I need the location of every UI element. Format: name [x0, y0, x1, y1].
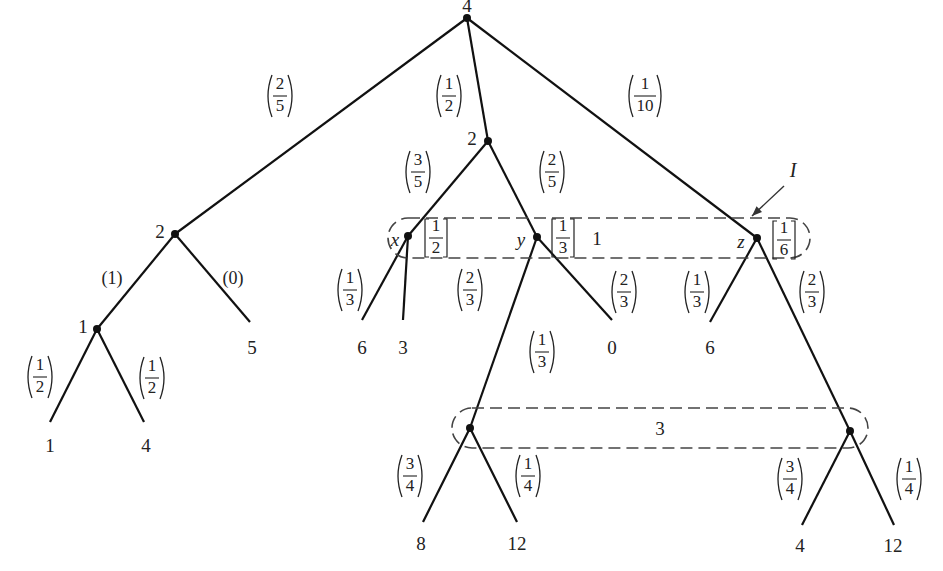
tree-edge: [467, 18, 757, 238]
tree-edge: [97, 329, 144, 422]
fraction-numerator: 3: [406, 454, 415, 473]
fraction-numerator: 1: [559, 216, 568, 235]
right-bracket-icon: [570, 219, 574, 257]
information-set-lower: 3: [452, 408, 868, 448]
right-paren-icon: [657, 75, 661, 117]
fraction-numerator: 2: [466, 268, 475, 287]
edge-probability: 14: [897, 457, 921, 500]
right-paren-icon: [160, 357, 164, 399]
edge-probability: 12: [28, 355, 52, 398]
decision-node-dot: [93, 325, 101, 333]
right-paren-icon: [536, 455, 540, 497]
edge-probability: 23: [800, 270, 824, 313]
edge-probability: 35: [406, 150, 430, 193]
fraction-numerator: 1: [346, 268, 355, 287]
fraction-numerator: 1: [538, 330, 547, 349]
fraction-numerator: 1: [641, 74, 650, 93]
fraction-denominator: 5: [276, 96, 285, 115]
decision-node-dot: [466, 424, 474, 432]
payoff-leaves: 1456306812412: [45, 337, 902, 556]
decision-node-dot: [533, 233, 541, 241]
edge-probability: 25: [268, 74, 292, 117]
payoff-value: 12: [884, 535, 903, 556]
left-paren-icon: [398, 455, 402, 497]
information-set-player: 3: [655, 418, 665, 439]
fraction-denominator: 6: [780, 240, 789, 259]
edge-probability: 12: [140, 356, 164, 399]
fraction-denominator: 2: [432, 238, 441, 257]
left-bracket-icon: [552, 219, 556, 257]
right-bracket-icon: [791, 221, 795, 259]
info-set-label: I: [789, 159, 798, 181]
game-tree-diagram: 13 2512110(1)(0)121235251323132313233414…: [0, 0, 943, 571]
tree-edge: [802, 431, 850, 525]
node-name-x: x: [390, 229, 400, 250]
left-paren-icon: [540, 151, 544, 193]
node-name-y: y: [515, 229, 526, 250]
node-player-label: 1: [78, 316, 88, 337]
tree-edge: [488, 141, 537, 237]
fraction-denominator: 5: [548, 172, 557, 191]
payoff-value: 4: [141, 435, 151, 456]
left-paren-icon: [897, 458, 901, 500]
left-paren-icon: [685, 271, 689, 313]
fraction-numerator: 2: [548, 150, 557, 169]
fraction-denominator: 3: [466, 290, 475, 309]
left-paren-icon: [612, 271, 616, 313]
tree-edge: [470, 428, 517, 522]
node-player-label: 2: [155, 221, 165, 242]
right-paren-icon: [288, 75, 292, 117]
payoff-value: 5: [247, 337, 257, 358]
fraction-denominator: 2: [445, 96, 454, 115]
edge-probability: 25: [540, 150, 564, 193]
decision-node-dot: [171, 230, 179, 238]
fraction-numerator: 1: [780, 218, 789, 237]
fraction-numerator: 1: [905, 457, 914, 476]
fraction-numerator: 1: [432, 216, 441, 235]
left-paren-icon: [28, 356, 32, 398]
information-sets: 13: [388, 218, 868, 448]
right-paren-icon: [48, 356, 52, 398]
left-paren-icon: [778, 458, 782, 500]
fraction-denominator: 3: [346, 290, 355, 309]
decision-node-dot: [484, 137, 492, 145]
edge-probability: 23: [458, 268, 482, 311]
right-paren-icon: [632, 271, 636, 313]
decision-node-dot: [753, 234, 761, 242]
fraction-denominator: 4: [786, 479, 795, 498]
fraction-denominator: 2: [36, 377, 45, 396]
payoff-value: 6: [705, 337, 715, 358]
tree-edge: [423, 428, 470, 522]
fraction-numerator: 1: [148, 356, 157, 375]
decision-node-dot: [404, 232, 412, 240]
fraction-numerator: 1: [693, 270, 702, 289]
decision-node-dot: [846, 427, 854, 435]
tree-edge: [467, 18, 488, 141]
left-paren-icon: [140, 357, 144, 399]
edge-probability: 34: [398, 454, 422, 497]
left-paren-icon: [268, 75, 272, 117]
fraction-numerator: 3: [786, 457, 795, 476]
belief-z: 16: [773, 218, 795, 259]
edge-probability: 34: [778, 457, 802, 500]
edge-probability: 13: [338, 268, 362, 311]
fraction-numerator: 2: [620, 270, 629, 289]
right-paren-icon: [820, 271, 824, 313]
payoff-value: 3: [398, 337, 408, 358]
edge-probability: (0): [223, 268, 244, 289]
edge-probability: 23: [612, 270, 636, 313]
fraction-numerator: 2: [276, 74, 285, 93]
left-paren-icon: [437, 75, 441, 117]
left-bracket-icon: [425, 219, 429, 257]
left-paren-icon: [530, 331, 534, 373]
edge-probability: 110: [629, 74, 661, 117]
belief-y: 13: [552, 216, 574, 257]
tree-edge: [710, 238, 757, 322]
fraction-numerator: 3: [414, 150, 423, 169]
information-set-I: 1: [388, 218, 810, 258]
payoff-value: 1: [45, 435, 55, 456]
left-paren-icon: [800, 271, 804, 313]
info-set-pointer: I: [752, 159, 798, 216]
tree-edge: [403, 236, 408, 320]
fraction-denominator: 4: [406, 476, 415, 495]
